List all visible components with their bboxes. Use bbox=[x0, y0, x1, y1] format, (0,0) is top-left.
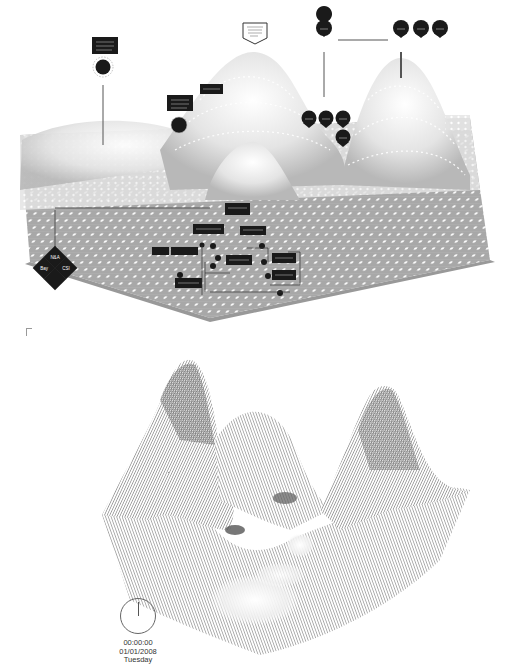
label-box-3[interactable] bbox=[200, 84, 223, 94]
terrain-surface-panel: N&A Bay CSI bbox=[0, 0, 519, 330]
wireframe-surface-panel bbox=[0, 340, 519, 667]
mesh-dip-2 bbox=[273, 492, 297, 504]
flow-node-5[interactable] bbox=[171, 247, 198, 255]
time-clock: 00:00:00 01/01/2008 Tuesday bbox=[111, 598, 165, 665]
corner-mark bbox=[26, 328, 32, 336]
label-box-2[interactable] bbox=[167, 95, 193, 111]
flow-node-1[interactable] bbox=[225, 203, 250, 215]
clock-icon bbox=[120, 598, 156, 634]
clock-weekday: Tuesday bbox=[111, 656, 165, 665]
flow-node-3[interactable] bbox=[240, 226, 266, 235]
pin-marker-1[interactable] bbox=[316, 6, 332, 37]
mesh-highlight-1 bbox=[286, 533, 314, 557]
flow-node-4[interactable] bbox=[152, 247, 169, 255]
terrain-surface-plot: N&A Bay CSI bbox=[0, 0, 519, 330]
svg-text:CSI: CSI bbox=[62, 266, 70, 271]
flag-label[interactable] bbox=[243, 23, 267, 44]
label-box-1[interactable] bbox=[92, 37, 118, 54]
badge-1[interactable] bbox=[93, 57, 113, 77]
mesh-dip-1 bbox=[225, 525, 245, 535]
wireframe-surface-plot bbox=[0, 340, 519, 667]
svg-text:N&A: N&A bbox=[50, 255, 59, 260]
badge-2[interactable] bbox=[171, 117, 187, 133]
svg-text:Bay: Bay bbox=[40, 266, 49, 271]
